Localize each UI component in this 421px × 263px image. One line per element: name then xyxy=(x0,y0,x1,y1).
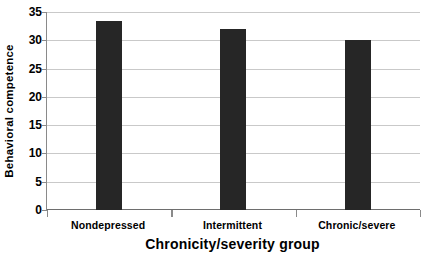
y-tick-label: 15 xyxy=(16,119,42,131)
y-axis-tick-labels: 05101520253035 xyxy=(16,12,42,210)
bar-slot xyxy=(47,12,171,210)
x-tick-mark xyxy=(47,210,48,217)
x-axis-category-labels: NondepressedIntermittentChronic/severe xyxy=(46,219,419,235)
y-tick-label: 35 xyxy=(16,6,42,18)
y-tick-label: 10 xyxy=(16,147,42,159)
y-tick-label: 30 xyxy=(16,34,42,46)
y-tick-label: 5 xyxy=(16,176,42,188)
x-category-label: Chronic/severe xyxy=(318,219,395,231)
bar[interactable] xyxy=(96,21,122,211)
bar-chart-figure: Behavioral competence 05101520253035 Non… xyxy=(0,0,421,263)
bar-slot xyxy=(296,12,420,210)
x-tick-mark xyxy=(171,210,172,217)
y-tick-label: 25 xyxy=(16,63,42,75)
x-axis-title: Chronicity/severity group xyxy=(46,236,419,252)
plot-area xyxy=(46,12,420,210)
bar[interactable] xyxy=(345,40,371,210)
x-category-label: Nondepressed xyxy=(71,219,145,231)
x-tick-mark xyxy=(296,210,297,217)
bars-group xyxy=(47,12,420,210)
bar[interactable] xyxy=(220,29,246,210)
x-category-label: Intermittent xyxy=(203,219,262,231)
y-axis-title-text: Behavioral competence xyxy=(3,44,15,177)
y-tick-label: 0 xyxy=(16,204,42,216)
bar-slot xyxy=(171,12,295,210)
y-tick-label: 20 xyxy=(16,91,42,103)
